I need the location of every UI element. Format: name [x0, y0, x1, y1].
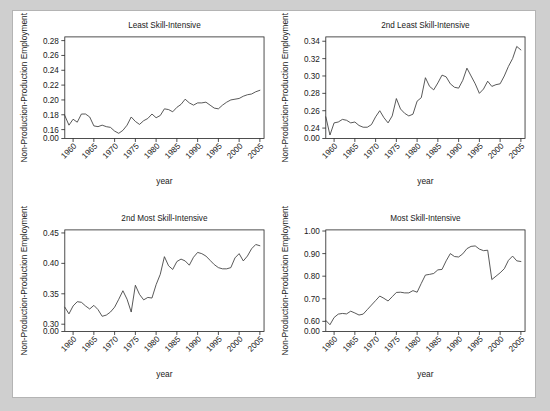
data-series-line: [65, 245, 260, 317]
panel-title: 2nd Least Skill-Intensive: [381, 21, 470, 30]
x-tick-label: 1995: [466, 141, 486, 161]
x-axis-title: year: [417, 176, 433, 186]
y-tick-label: 0.28: [43, 37, 59, 46]
panel-title: 2nd Most Skill-Intensive: [121, 214, 208, 223]
x-tick-label: 1995: [205, 141, 225, 161]
x-tick-label: 1975: [383, 141, 403, 161]
y-tick-label: 0.30: [304, 72, 320, 81]
x-axis-title: year: [156, 176, 172, 186]
x-tick-label: 1975: [122, 141, 142, 161]
panel-2nd-least-skill-intensive: 2nd Least Skill-Intensive0.000.240.260.2…: [274, 11, 535, 204]
chart-svg: 2nd Least Skill-Intensive0.000.240.260.2…: [274, 11, 535, 204]
x-tick-label: 1970: [362, 334, 382, 354]
panel-2nd-most-skill-intensive: 2nd Most Skill-Intensive0.000.300.350.40…: [13, 204, 274, 397]
x-tick-label: 1980: [142, 141, 162, 161]
y-tick-label: 0.22: [43, 81, 59, 90]
x-tick-label: 1985: [424, 334, 444, 354]
x-tick-label: 1965: [80, 334, 100, 354]
x-tick-label: 2005: [507, 334, 527, 354]
plot-frame: [326, 37, 525, 139]
y-tick-label: 0.20: [43, 96, 59, 105]
y-tick-label: 0.26: [43, 51, 59, 60]
x-tick-label: 2005: [246, 334, 266, 354]
x-tick-label: 1985: [163, 334, 183, 354]
x-tick-label: 1960: [320, 334, 340, 354]
y-tick-label: 0.32: [304, 55, 320, 64]
plot-frame: [65, 37, 264, 139]
x-tick-label: 1985: [424, 141, 444, 161]
panel-grid: Least Skill-Intensive0.000.160.180.200.2…: [13, 11, 535, 397]
y-tick-label: 0.30: [43, 320, 59, 329]
x-tick-label: 1970: [101, 334, 121, 354]
y-tick-label: 0.45: [43, 229, 59, 238]
panel-title: Least Skill-Intensive: [128, 21, 201, 30]
y-tick-label: 0.00: [304, 328, 320, 337]
x-tick-label: 1990: [445, 141, 465, 161]
x-axis-title: year: [156, 370, 172, 380]
y-tick-label: 0.35: [43, 290, 59, 299]
y-tick-label: 0.26: [304, 107, 320, 116]
y-axis-title: Non-Production-Production Employment: [280, 12, 290, 162]
x-tick-label: 1980: [403, 334, 423, 354]
y-axis-title: Non-Production-Production Employment: [19, 12, 29, 162]
y-tick-label: 0.40: [43, 260, 59, 269]
x-tick-label: 1995: [205, 334, 225, 354]
panel-least-skill-intensive: Least Skill-Intensive0.000.160.180.200.2…: [13, 11, 274, 204]
x-tick-label: 1980: [142, 334, 162, 354]
x-tick-label: 1975: [122, 334, 142, 354]
y-axis-title: Non-Production-Production Employment: [19, 205, 29, 355]
y-tick-label: 1.00: [304, 227, 320, 236]
y-tick-label: 0.60: [304, 318, 320, 327]
panel-most-skill-intensive: Most Skill-Intensive0.000.600.700.800.90…: [274, 204, 535, 397]
x-tick-label: 1970: [362, 141, 382, 161]
x-tick-label: 2005: [246, 141, 266, 161]
x-tick-label: 2005: [507, 141, 527, 161]
chart-svg: 2nd Most Skill-Intensive0.000.300.350.40…: [13, 204, 274, 397]
y-tick-label: 0.34: [304, 37, 320, 46]
x-tick-label: 1970: [101, 141, 121, 161]
y-tick-label: 0.16: [43, 126, 59, 135]
figure-frame: Least Skill-Intensive0.000.160.180.200.2…: [12, 10, 536, 398]
y-axis-title: Non-Production-Production Employment: [280, 205, 290, 355]
data-series-line: [326, 246, 521, 325]
x-tick-label: 1985: [163, 141, 183, 161]
y-tick-label: 0.70: [304, 295, 320, 304]
y-tick-label: 0.28: [304, 89, 320, 98]
data-series-line: [326, 46, 521, 135]
panel-title: Most Skill-Intensive: [390, 214, 461, 223]
y-tick-label: 0.80: [304, 272, 320, 281]
x-tick-label: 1980: [403, 141, 423, 161]
x-tick-label: 1960: [59, 141, 79, 161]
x-tick-label: 1965: [80, 141, 100, 161]
x-tick-label: 1990: [445, 334, 465, 354]
x-tick-label: 1965: [341, 334, 361, 354]
x-tick-label: 1990: [184, 334, 204, 354]
y-tick-label: 0.00: [304, 134, 320, 143]
x-tick-label: 1960: [320, 141, 340, 161]
y-tick-label: 0.24: [43, 66, 59, 75]
x-tick-label: 2000: [486, 141, 506, 161]
y-tick-label: 0.24: [304, 124, 320, 133]
x-tick-label: 1975: [383, 334, 403, 354]
y-tick-label: 0.90: [304, 250, 320, 259]
x-tick-label: 1960: [59, 334, 79, 354]
x-tick-label: 1995: [466, 334, 486, 354]
y-tick-label: 0.00: [43, 134, 59, 143]
x-tick-label: 1990: [184, 141, 204, 161]
data-series-line: [65, 90, 260, 133]
chart-svg: Most Skill-Intensive0.000.600.700.800.90…: [274, 204, 535, 397]
plot-frame: [326, 230, 525, 332]
chart-svg: Least Skill-Intensive0.000.160.180.200.2…: [13, 11, 274, 204]
plot-frame: [65, 230, 264, 332]
x-tick-label: 1965: [341, 141, 361, 161]
x-tick-label: 2000: [486, 334, 506, 354]
y-tick-label: 0.18: [43, 111, 59, 120]
x-tick-label: 2000: [225, 141, 245, 161]
x-tick-label: 2000: [225, 334, 245, 354]
x-axis-title: year: [417, 370, 433, 380]
